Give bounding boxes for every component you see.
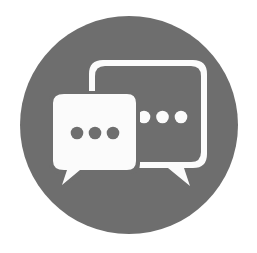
dot-icon [89,127,102,140]
dot-icon [71,127,84,140]
chat-icon-container [0,0,257,253]
right-bubble-dots [138,111,188,124]
dot-icon [175,111,188,124]
chat-bubbles-icon [0,0,257,253]
left-bubble-dots [71,127,120,140]
dot-icon [156,111,169,124]
dot-icon [107,127,120,140]
